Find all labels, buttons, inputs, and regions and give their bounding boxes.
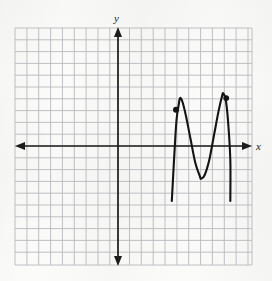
coordinate-plane — [0, 0, 272, 281]
x-axis-arrow-right — [242, 142, 252, 150]
graph-figure: y x — [0, 0, 272, 281]
y-axis-label: y — [114, 13, 119, 24]
curve-point-marker-left — [173, 107, 179, 113]
x-axis-label: x — [256, 141, 261, 152]
curve-path — [172, 93, 231, 201]
plotted-curve — [172, 93, 231, 201]
curve-point-marker-right — [223, 95, 229, 101]
y-axis-arrow-up — [114, 27, 122, 37]
y-axis-arrow-down — [114, 256, 122, 266]
x-axis-arrow-left — [15, 142, 25, 150]
